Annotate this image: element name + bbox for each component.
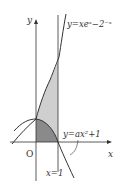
y-axis-label: y — [26, 15, 33, 25]
y-axis-arrow-icon — [34, 19, 38, 24]
origin-label: O — [26, 149, 33, 159]
x-equals-1-label: x=1 — [46, 168, 63, 178]
x-axis-label: x — [108, 149, 113, 159]
x-axis-arrow-icon — [107, 140, 112, 144]
graph-figure: y x O y=xeˣ−2⁻ˣ y=ax²+1 x=1 — [0, 0, 130, 191]
exponential-curve-label: y=xeˣ−2⁻ˣ — [66, 19, 112, 29]
parabola-label: y=ax²+1 — [62, 129, 101, 139]
